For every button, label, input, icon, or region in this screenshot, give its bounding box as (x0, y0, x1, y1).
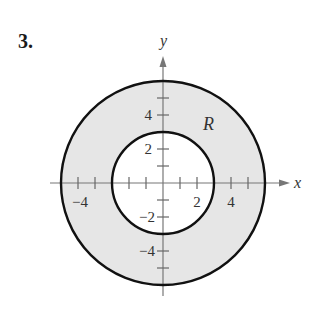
y-axis-label: y (158, 32, 168, 50)
x-tick-label-4: 4 (227, 194, 235, 210)
y-axis-arrow-icon (160, 56, 167, 67)
y-tick-label-4: 4 (145, 107, 153, 123)
y-tick-label-2: 2 (145, 141, 153, 157)
x-axis-arrow-icon (279, 180, 290, 187)
x-tick-label-2: 2 (193, 194, 201, 210)
y-tick-label-neg2: −2 (139, 209, 155, 225)
annulus-diagram: y x R −4 2 4 4 2 −2 −4 (0, 0, 311, 310)
y-tick-label-neg4: −4 (139, 243, 155, 259)
x-axis-label: x (293, 174, 301, 191)
region-label: R (202, 114, 214, 134)
x-tick-label-neg4: −4 (72, 194, 88, 210)
